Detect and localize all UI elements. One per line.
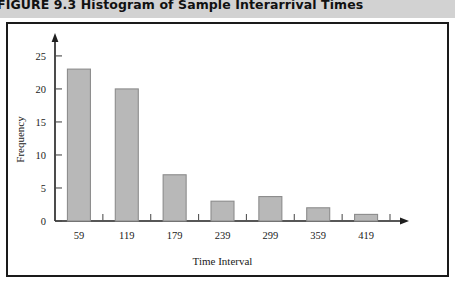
y-axis-tick-label: 15 — [36, 117, 47, 128]
figure-caption-text: FIGURE 9.3 Histogram of Sample Interarri… — [0, 0, 363, 12]
histogram-bar — [259, 197, 282, 221]
x-axis-tick-label: 59 — [74, 230, 85, 241]
x-axis-title: Time Interval — [193, 255, 253, 267]
histogram-bar — [307, 208, 330, 221]
figure-page: FIGURE 9.3 Histogram of Sample Interarri… — [0, 0, 455, 283]
y-axis-title: Frequency — [14, 116, 26, 163]
figure-caption-bar: FIGURE 9.3 Histogram of Sample Interarri… — [0, 0, 455, 18]
histogram-chart: 0510152025Frequency59119179239299359419T… — [8, 24, 451, 279]
chart-canvas: 0510152025Frequency59119179239299359419T… — [8, 24, 451, 279]
histogram-bar — [355, 214, 378, 221]
histogram-bar — [115, 89, 138, 221]
x-axis-arrow-icon — [400, 218, 409, 225]
x-axis-tick-label: 119 — [119, 230, 134, 241]
histogram-bar — [163, 175, 186, 221]
y-axis-tick-label: 20 — [36, 84, 47, 95]
x-axis-tick-label: 359 — [310, 230, 326, 241]
y-axis-tick-label: 5 — [41, 183, 46, 194]
y-axis-tick-label: 0 — [41, 216, 46, 227]
x-axis-tick-label: 419 — [358, 230, 374, 241]
x-axis-tick-label: 239 — [215, 230, 231, 241]
x-axis-tick-label: 179 — [167, 230, 183, 241]
y-axis-arrow-icon — [52, 33, 59, 42]
histogram-bar — [67, 69, 90, 221]
figure-frame: 0510152025Frequency59119179239299359419T… — [6, 22, 449, 277]
y-axis-tick-label: 25 — [36, 51, 47, 62]
x-axis-tick-label: 299 — [262, 230, 278, 241]
histogram-bar — [211, 201, 234, 221]
y-axis-tick-label: 10 — [36, 150, 47, 161]
